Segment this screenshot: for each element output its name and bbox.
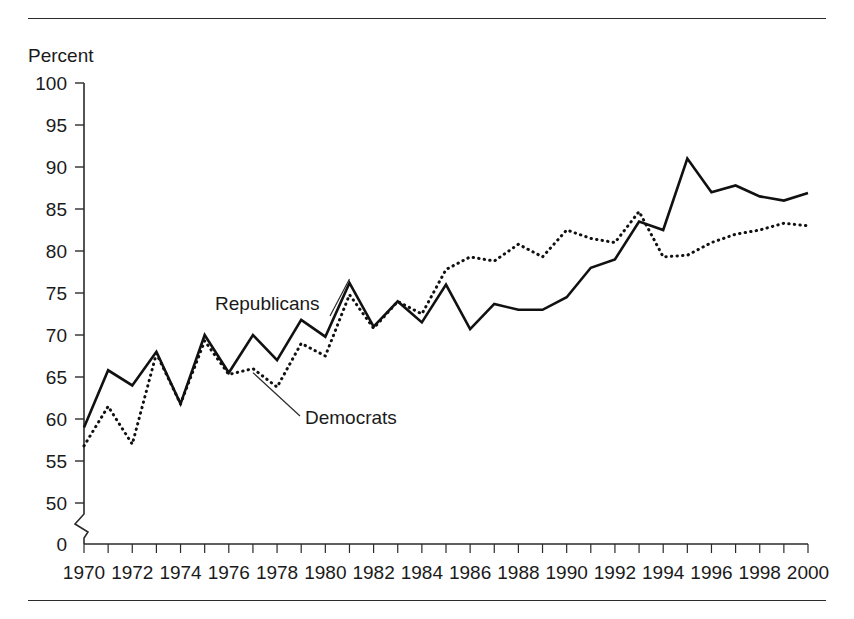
figure-bottom-rule [28, 600, 826, 601]
y-axis-tick-label: 80 [46, 241, 67, 262]
y-axis-tick-label: 50 [46, 493, 67, 514]
x-axis-tick-label: 1994 [642, 562, 685, 583]
series-line-republicans [84, 159, 808, 428]
y-axis-tick-label: 55 [46, 451, 67, 472]
y-axis-title: Percent [28, 45, 94, 66]
series-line-democrats [84, 212, 808, 446]
figure-top-rule [28, 18, 826, 19]
series-label-republicans: Republicans [215, 293, 320, 314]
y-axis: 505560657075808590951000 [35, 73, 88, 555]
x-axis-tick-label: 1988 [497, 562, 539, 583]
y-axis-tick-label: 90 [46, 157, 67, 178]
x-axis-tick-label: 1996 [690, 562, 732, 583]
x-axis-tick-label: 1986 [449, 562, 491, 583]
y-axis-tick-label: 75 [46, 283, 67, 304]
figure-container: Percent 505560657075808590951000 1970197… [0, 0, 854, 619]
chart-plot-area: Percent 505560657075808590951000 1970197… [0, 20, 854, 600]
x-axis-tick-label: 1976 [208, 562, 250, 583]
y-axis-tick-label: 70 [46, 325, 67, 346]
y-axis-tick-label: 60 [46, 409, 67, 430]
x-axis-tick-label: 1972 [111, 562, 153, 583]
annotation-leader-line [253, 373, 300, 416]
x-axis-tick-label: 1992 [594, 562, 636, 583]
x-axis: 1970197219741976197819801982198419861988… [63, 544, 829, 583]
line-chart: Percent 505560657075808590951000 1970197… [0, 20, 854, 600]
x-axis-tick-label: 1982 [352, 562, 394, 583]
series-label-democrats: Democrats [305, 407, 397, 428]
y-axis-tick-label: 85 [46, 199, 67, 220]
y-axis-spine [75, 83, 88, 544]
x-axis-tick-label: 1984 [401, 562, 444, 583]
x-axis-tick-label: 2000 [787, 562, 829, 583]
x-axis-tick-label: 1990 [546, 562, 588, 583]
x-axis-tick-label: 1998 [739, 562, 781, 583]
x-axis-tick-label: 1978 [256, 562, 298, 583]
x-axis-tick-label: 1974 [159, 562, 202, 583]
y-axis-zero-label: 0 [56, 534, 67, 555]
x-axis-tick-label: 1980 [304, 562, 346, 583]
y-axis-tick-label: 100 [35, 73, 67, 94]
y-axis-tick-label: 65 [46, 367, 67, 388]
x-axis-tick-label: 1970 [63, 562, 105, 583]
y-axis-tick-label: 95 [46, 115, 67, 136]
annotation-leader-line [330, 279, 349, 316]
